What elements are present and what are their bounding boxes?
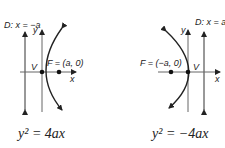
y-axis-label: y [32, 25, 38, 35]
equation: y² = 4ax [16, 126, 66, 141]
parabola-diagrams: D: x = −a y V F = (a, 0) x y² = 4ax D: x… [0, 0, 225, 148]
directrix-label: D: x = a [195, 17, 225, 27]
y-axis-label: y [180, 25, 186, 35]
parabola-curve [166, 31, 189, 108]
vertex-label: V [193, 62, 200, 72]
x-axis-label: x [69, 74, 75, 84]
focus-label: F = (a, 0) [47, 58, 84, 68]
focus-label: F = (−a, 0) [140, 58, 182, 68]
left-diagram: D: x = −a y V F = (a, 0) x y² = 4ax [4, 20, 84, 141]
focus-point [169, 70, 174, 75]
focus-point [57, 70, 62, 75]
vertex-point [40, 70, 45, 75]
x-axis-label: x [214, 74, 220, 84]
vertex-label: V [31, 62, 38, 72]
parabola-curve [46, 28, 62, 110]
vertex-point [186, 70, 191, 75]
right-diagram: D: x = a y V F = (−a, 0) x y² = −4ax [140, 17, 225, 141]
equation: y² = −4ax [150, 126, 209, 141]
